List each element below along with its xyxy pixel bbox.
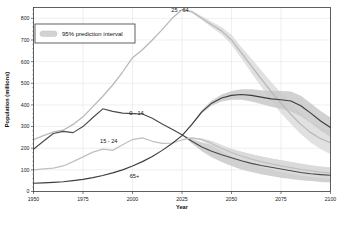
svg-text:0 - 14: 0 - 14 bbox=[129, 110, 143, 116]
svg-text:100: 100 bbox=[21, 167, 30, 173]
svg-text:300: 300 bbox=[21, 123, 30, 129]
legend[interactable]: 95% prediction interval bbox=[35, 24, 135, 43]
svg-text:400: 400 bbox=[21, 102, 30, 108]
svg-text:500: 500 bbox=[21, 80, 30, 86]
population-projection-chart: 0100200300400500600700800195019752000202… bbox=[0, 0, 346, 231]
svg-text:2100: 2100 bbox=[325, 196, 337, 202]
svg-text:2075: 2075 bbox=[275, 196, 287, 202]
svg-text:2025: 2025 bbox=[176, 196, 188, 202]
svg-text:Year: Year bbox=[176, 204, 189, 210]
svg-text:800: 800 bbox=[21, 15, 30, 21]
svg-text:25 - 64: 25 - 64 bbox=[171, 7, 188, 13]
svg-text:700: 700 bbox=[21, 37, 30, 43]
svg-text:2000: 2000 bbox=[127, 196, 139, 202]
svg-text:65+: 65+ bbox=[130, 173, 140, 179]
svg-text:Population (millions): Population (millions) bbox=[4, 72, 10, 127]
svg-text:95% prediction interval: 95% prediction interval bbox=[62, 31, 123, 37]
svg-text:1950: 1950 bbox=[28, 196, 40, 202]
svg-text:15 - 24: 15 - 24 bbox=[100, 138, 117, 144]
svg-text:0: 0 bbox=[27, 188, 30, 194]
svg-text:600: 600 bbox=[21, 59, 30, 65]
svg-text:200: 200 bbox=[21, 145, 30, 151]
svg-text:1975: 1975 bbox=[77, 196, 89, 202]
svg-text:2050: 2050 bbox=[226, 196, 238, 202]
chart-canvas: 0100200300400500600700800195019752000202… bbox=[0, 0, 346, 231]
